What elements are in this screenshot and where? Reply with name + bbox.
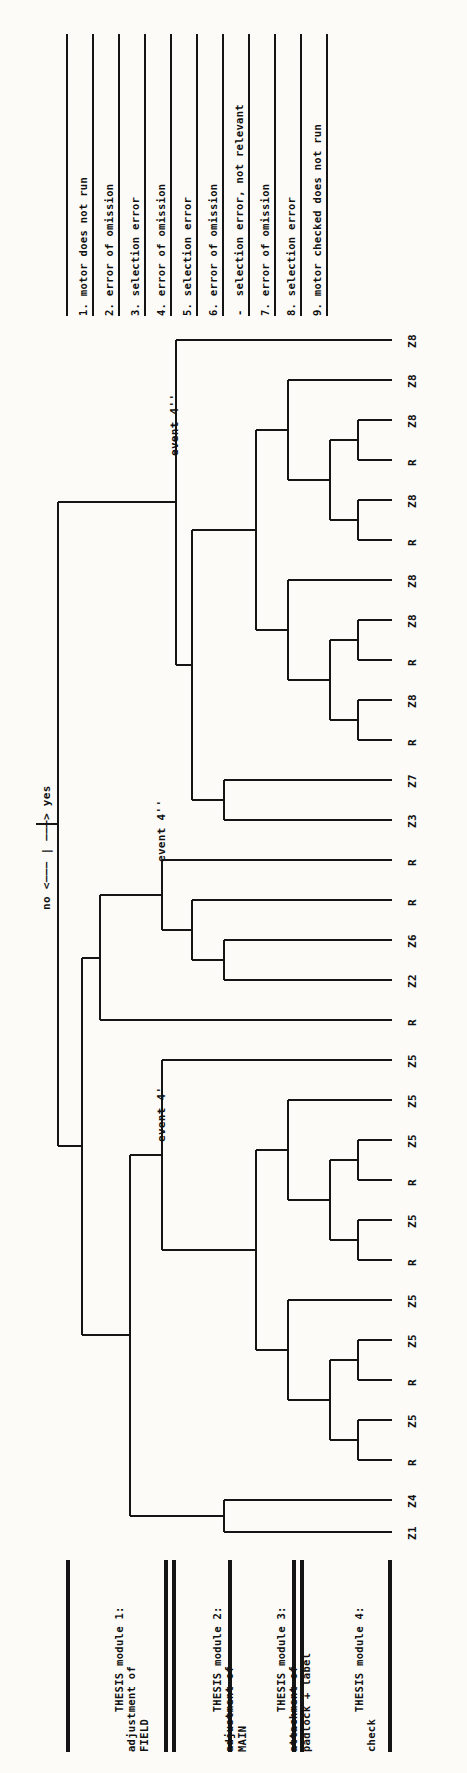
legend-divider [144,34,146,316]
legend-divider [248,34,250,316]
leaf-label: R [406,859,419,866]
module-label-4: THESIS module 4: check [340,1606,390,1752]
module-divider [164,1560,168,1752]
legend-item-2: 2. error of omission [104,184,115,316]
dendrogram: Z8 Z8 Z8 R Z8 R Z8 Z8 R Z8 R Z7 Z3 R R Z… [0,332,467,1540]
leaf-label: Z1 [406,1526,419,1540]
module-label-2: THESIS module 2: adjustment of MAIN [198,1606,261,1752]
leaf-label: R [406,1179,419,1186]
leaf-label: R [406,1379,419,1386]
legend-item-3: 3. selection error [130,197,141,316]
leaf-label: Z2 [406,974,419,988]
leaf-label: R [406,1019,419,1026]
leaf-label: Z5 [406,1054,419,1068]
node-annotation-event-4dd-top: event 4'' [168,394,181,456]
leaf-label: R [406,739,419,746]
node-annotation-event-4d: event 4' [155,1087,168,1142]
leaf-label: Z8 [406,494,419,508]
legend-item-1: 1. motor does not run [78,177,89,316]
dendrogram-lines [0,332,467,1540]
figure-page: 1. motor does not run 2. error of omissi… [0,0,467,1773]
leaf-label: Z5 [406,1134,419,1148]
leaf-label: Z5 [406,1414,419,1428]
node-annotation-event-4dd-mid: event 4'' [155,800,168,862]
leaf-label: Z5 [406,1094,419,1108]
leaf-label: Z8 [406,574,419,588]
module-label-4-text: THESIS module 4: check [353,1606,378,1752]
legend-item-4: 4. error of omission [156,184,167,316]
legend-divider [196,34,198,316]
leaf-label: Z8 [406,614,419,628]
legend-item-7: 7. error of omission [260,184,271,316]
module-label-3-text: THESIS module 3: attachment of padlock +… [275,1606,312,1752]
leaf-label: Z4 [406,1494,419,1508]
module-label-3: THESIS module 3: attachment of padlock +… [262,1606,325,1752]
legend-divider [118,34,120,316]
leaf-label: Z6 [406,934,419,948]
legend-divider [222,34,224,316]
axis-label: no <——— | ———> yes [40,785,53,910]
leaf-label: Z8 [406,414,419,428]
leaf-label: Z8 [406,334,419,348]
leaf-label: Z5 [406,1334,419,1348]
legend-item-9: 9. motor checked does not run [312,124,323,316]
module-label-2-text: THESIS module 2: adjustment of MAIN [211,1606,248,1752]
legend-item-dash: - selection error, not relevant [234,104,245,316]
legend-item-8: 8. selection error [286,197,297,316]
module-divider [172,1560,176,1752]
leaf-label: Z8 [406,374,419,388]
legend-divider [170,34,172,316]
module-label-1-text: THESIS module 1: adjustment of FIELD [113,1606,150,1752]
leaf-label: Z7 [406,774,419,788]
legend-divider [92,34,94,316]
modules-block: THESIS module 1: adjustment of FIELD THE… [0,1540,467,1773]
legend-divider [274,34,276,316]
leaf-label: R [406,899,419,906]
leaf-label: R [406,1459,419,1466]
legend-block: 1. motor does not run 2. error of omissi… [0,0,467,332]
legend-divider [300,34,302,316]
leaf-label: R [406,1259,419,1266]
module-label-1: THESIS module 1: adjustment of FIELD [100,1606,163,1752]
leaf-label: R [406,459,419,466]
legend-divider [66,34,68,316]
leaf-label: Z3 [406,814,419,828]
leaf-label: Z5 [406,1294,419,1308]
module-divider [66,1560,70,1752]
legend-divider [326,34,328,316]
leaf-label: R [406,659,419,666]
leaf-label: Z8 [406,694,419,708]
legend-item-5: 5. selection error [182,197,193,316]
leaf-label: R [406,539,419,546]
legend-item-6: 6. error of omission [208,184,219,316]
leaf-label: Z5 [406,1214,419,1228]
